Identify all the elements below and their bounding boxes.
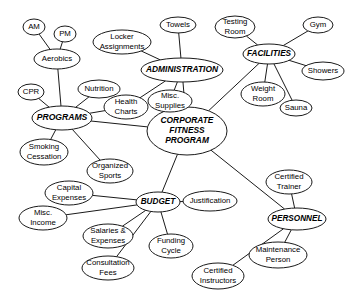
edge-pm-to-aerobics bbox=[60, 42, 62, 49]
node-label-line: BUDGET bbox=[141, 197, 177, 206]
node-label-line: Supplies bbox=[155, 101, 185, 110]
concept-map-canvas: CORPORATEFITNESSPROGRAMPROGRAMSADMINISTR… bbox=[0, 0, 355, 303]
node-label-line: Room bbox=[253, 94, 274, 103]
node-budget[interactable]: BUDGET bbox=[136, 192, 180, 212]
node-label-line: Expenses bbox=[91, 236, 125, 245]
edge-certtrainer-to-personnel bbox=[292, 194, 295, 208]
edge-budget-to-funding bbox=[161, 212, 168, 234]
node-label-pm: PM bbox=[59, 29, 71, 38]
node-label-line: Health bbox=[115, 97, 138, 106]
node-label-justification: Justification bbox=[190, 196, 231, 205]
node-facilities[interactable]: FACILITIES bbox=[243, 44, 295, 64]
node-corporate[interactable]: CORPORATEFITNESSPROGRAM bbox=[147, 107, 227, 155]
node-capital[interactable]: CapitalExpenses bbox=[45, 181, 93, 205]
node-label-line: Expenses bbox=[52, 193, 86, 202]
node-label-line: Cessation bbox=[27, 152, 62, 161]
node-label-line: Funding bbox=[157, 236, 185, 245]
node-miscincome[interactable]: Misc.Income bbox=[19, 206, 67, 230]
node-label-certinstruct: CertifiedInstructors bbox=[200, 266, 236, 284]
edge-testing-to-facilities bbox=[246, 36, 257, 45]
node-programs[interactable]: PROGRAMS bbox=[32, 106, 92, 130]
node-label-nutrition: Nutrition bbox=[84, 84, 113, 93]
node-label-testing: TestingRoom bbox=[223, 17, 248, 35]
edge-administration-to-supplies bbox=[174, 82, 177, 90]
node-label-miscincome: Misc.Income bbox=[30, 208, 56, 226]
node-label-line: FITNESS bbox=[169, 125, 205, 135]
node-label-facilities: FACILITIES bbox=[247, 49, 292, 58]
edge-health-to-programs bbox=[90, 111, 105, 114]
node-label-line: Assignments bbox=[100, 42, 145, 51]
node-testing[interactable]: TestingRoom bbox=[215, 16, 255, 38]
node-supplies[interactable]: Misc.Supplies bbox=[148, 90, 192, 112]
edge-aerobics-to-programs bbox=[58, 69, 61, 106]
node-gym[interactable]: Gym bbox=[303, 17, 333, 33]
node-personnel[interactable]: PERSONNEL bbox=[268, 208, 326, 230]
node-label-line: Locker bbox=[110, 32, 134, 41]
node-label-line: Aerobics bbox=[42, 54, 72, 63]
node-label-line: PERSONNEL bbox=[272, 214, 323, 223]
node-nutrition[interactable]: Nutrition bbox=[78, 80, 120, 98]
edge-nutrition-to-programs bbox=[76, 97, 89, 107]
node-label-line: Towels bbox=[166, 20, 190, 29]
node-cpr[interactable]: CPR bbox=[18, 84, 44, 100]
edge-capital-to-budget bbox=[93, 195, 137, 199]
node-organized[interactable]: OrganizedSports bbox=[87, 159, 133, 183]
node-label-line: PROGRAM bbox=[165, 135, 210, 145]
node-label-budget: BUDGET bbox=[141, 197, 177, 206]
edge-programs-to-smoking bbox=[51, 130, 56, 140]
node-aerobics[interactable]: Aerobics bbox=[34, 49, 80, 69]
node-label-line: Showers bbox=[308, 66, 338, 75]
node-label-cpr: CPR bbox=[23, 87, 40, 96]
node-label-line: Fees bbox=[99, 268, 116, 277]
node-weight[interactable]: WeightRoom bbox=[241, 82, 285, 106]
node-label-certtrainer: CertifiedTrainer bbox=[274, 172, 303, 190]
node-label-line: Salaries & bbox=[90, 226, 126, 235]
node-label-line: Justification bbox=[190, 196, 231, 205]
node-label-personnel: PERSONNEL bbox=[272, 214, 323, 223]
node-label-aerobics: Aerobics bbox=[42, 54, 72, 63]
node-maintenance[interactable]: MaintenancePerson bbox=[249, 242, 307, 268]
edge-cpr-to-programs bbox=[39, 98, 49, 107]
node-sauna[interactable]: Sauna bbox=[280, 100, 312, 116]
node-label-line: Smoking bbox=[29, 142, 59, 151]
node-label-line: AM bbox=[28, 22, 40, 31]
node-label-line: Capital bbox=[57, 183, 82, 192]
edge-personnel-to-maintenance bbox=[285, 230, 292, 243]
node-label-line: Consultation bbox=[86, 258, 129, 267]
node-locker[interactable]: LockerAssignments bbox=[93, 30, 151, 54]
edge-programs-to-organized bbox=[72, 129, 100, 160]
node-label-line: Organized bbox=[92, 161, 128, 170]
node-label-line: Maintenance bbox=[256, 245, 301, 254]
node-label-programs: PROGRAMS bbox=[37, 112, 88, 122]
node-health[interactable]: HealthCharts bbox=[104, 95, 148, 119]
node-label-line: Certified bbox=[203, 266, 232, 275]
node-towels[interactable]: Towels bbox=[160, 17, 196, 33]
node-am[interactable]: AM bbox=[23, 19, 45, 35]
node-label-line: Gym bbox=[310, 20, 326, 29]
node-label-line: CPR bbox=[23, 87, 40, 96]
node-certinstruct[interactable]: CertifiedInstructors bbox=[192, 263, 244, 289]
node-label-gym: Gym bbox=[310, 20, 326, 29]
node-administration[interactable]: ADMINISTRATION bbox=[141, 58, 223, 82]
node-justification[interactable]: Justification bbox=[183, 191, 237, 211]
edge-showers-to-facilities bbox=[289, 60, 306, 65]
node-label-line: Trainer bbox=[277, 182, 302, 191]
node-label-line: Income bbox=[30, 218, 56, 227]
node-pm[interactable]: PM bbox=[54, 26, 76, 42]
node-label-line: FACILITIES bbox=[247, 49, 292, 58]
node-certtrainer[interactable]: CertifiedTrainer bbox=[266, 170, 312, 194]
node-consultation[interactable]: ConsultationFees bbox=[82, 256, 134, 280]
node-label-capital: CapitalExpenses bbox=[52, 183, 86, 201]
node-showers[interactable]: Showers bbox=[302, 62, 344, 80]
edge-budget-to-salaries bbox=[122, 210, 145, 226]
node-label-line: Instructors bbox=[200, 276, 236, 285]
node-smoking[interactable]: SmokingCessation bbox=[20, 139, 68, 165]
node-label-line: Misc. bbox=[161, 91, 179, 100]
edge-weight-to-facilities bbox=[265, 64, 268, 82]
node-salaries[interactable]: Salaries &Expenses bbox=[83, 224, 133, 248]
node-funding[interactable]: FundingCycle bbox=[149, 234, 193, 258]
edge-corporate-to-budget bbox=[162, 154, 177, 192]
edge-towels-to-administration bbox=[179, 33, 181, 58]
node-label-sauna: Sauna bbox=[285, 103, 308, 112]
node-label-line: PROGRAMS bbox=[37, 112, 88, 122]
